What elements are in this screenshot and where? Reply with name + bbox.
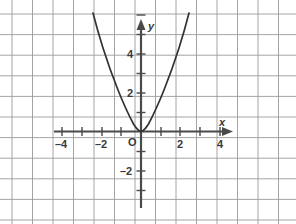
x-tick-label-minus-4: –4 bbox=[55, 139, 67, 150]
y-tick-label-2: 2 bbox=[127, 88, 133, 99]
x-axis-name-label: x bbox=[219, 117, 225, 128]
x-axis bbox=[54, 127, 233, 136]
x-tick-label-2: 2 bbox=[177, 139, 183, 150]
graph-figure: –4 –2 2 4 4 2 –2 O x y bbox=[0, 0, 296, 224]
y-axis-name-label: y bbox=[148, 21, 154, 32]
origin-label: O bbox=[128, 137, 137, 148]
y-axis bbox=[137, 19, 146, 208]
coordinate-plane bbox=[0, 0, 296, 224]
grid-horizontal-lines bbox=[0, 14, 296, 220]
y-tick-label-minus-2: –2 bbox=[120, 166, 132, 177]
x-tick-label-minus-2: –2 bbox=[95, 139, 107, 150]
x-tick-label-4: 4 bbox=[217, 139, 223, 150]
y-tick-label-4: 4 bbox=[127, 49, 133, 60]
